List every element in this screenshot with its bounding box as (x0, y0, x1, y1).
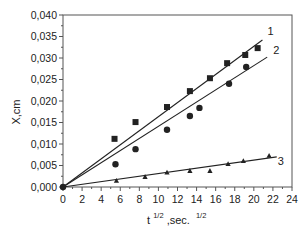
square-marker (133, 119, 139, 125)
circle-marker (187, 113, 193, 119)
y-tick-label: 0,010 (31, 138, 57, 150)
square-marker (255, 45, 261, 51)
square-marker (187, 88, 193, 94)
circle-marker (132, 146, 138, 152)
triangle-marker (267, 153, 272, 158)
origin-marker (60, 184, 66, 190)
x-tick-label: 22 (267, 193, 279, 205)
series-labels: 123 (267, 25, 283, 167)
series-label-1: 1 (267, 25, 273, 37)
y-tick-label: 0,005 (31, 159, 57, 171)
y-tick-label: 0,040 (31, 9, 57, 21)
y-tick-label: 0,025 (31, 73, 57, 85)
x-tick-label: 20 (248, 193, 260, 205)
y-tick-label: 0,020 (31, 95, 57, 107)
y-axis-label: X,cm (10, 99, 22, 124)
square-marker (224, 60, 230, 66)
x-tick-label: 14 (191, 193, 203, 205)
square-marker (112, 136, 118, 142)
y-tick-label: 0,035 (31, 30, 57, 42)
y-tick-label: 0,000 (31, 181, 57, 193)
square-marker (164, 104, 170, 110)
fit-lines (63, 40, 277, 187)
x-tick-label: 2 (79, 193, 85, 205)
x-tick-label: 12 (172, 193, 184, 205)
series-label-2: 2 (273, 44, 279, 56)
triangle-marker (241, 158, 246, 163)
x-axis-ticks: 024681012141618202224 (60, 187, 298, 205)
x-axis-label: t 1/2 ,sec. 1/2 (147, 208, 206, 226)
x-tick-label: 18 (229, 193, 241, 205)
circle-marker (243, 64, 249, 70)
x-tick-label: 0 (60, 193, 66, 205)
circle-marker (112, 161, 118, 167)
x-tick-label: 6 (117, 193, 123, 205)
circle-marker (196, 105, 202, 111)
circle-marker (226, 81, 232, 87)
fit-line-1 (63, 40, 262, 187)
y-axis-ticks: 0,0000,0050,0100,0150,0200,0250,0300,035… (31, 9, 63, 193)
circle-marker (164, 127, 170, 133)
chart: 0,0000,0050,0100,0150,0200,0250,0300,035… (0, 0, 308, 237)
x-tick-label: 10 (153, 193, 165, 205)
x-tick-label: 16 (210, 193, 222, 205)
square-marker (242, 52, 248, 58)
y-tick-label: 0,030 (31, 52, 57, 64)
x-tick-label: 8 (136, 193, 142, 205)
triangle-marker (207, 168, 212, 173)
x-tick-label: 4 (98, 193, 104, 205)
x-tick-label: 24 (286, 193, 298, 205)
y-tick-label: 0,015 (31, 116, 57, 128)
series-label-3: 3 (278, 155, 284, 167)
fit-line-2 (63, 57, 267, 187)
square-marker (207, 75, 213, 81)
